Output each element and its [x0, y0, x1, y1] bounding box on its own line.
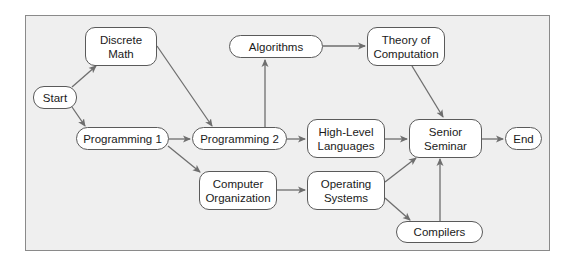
edge-start-discrete [72, 66, 96, 87]
node-senior-seminar: Senior Seminar [409, 119, 482, 158]
node-theory-of-computation: Theory of Computation [367, 27, 445, 66]
node-end: End [505, 127, 542, 150]
edge-discrete-prog2 [157, 46, 212, 126]
edge-theory-senior [412, 66, 443, 117]
edge-opsys-senior [385, 158, 416, 182]
node-high-level-languages: High-Level Languages [307, 119, 385, 158]
node-discrete-math: Discrete Math [85, 27, 157, 66]
node-programming-1: Programming 1 [76, 127, 169, 150]
node-start: Start [33, 86, 77, 109]
edge-opsys-compilers [385, 198, 410, 220]
node-compilers: Compilers [396, 221, 483, 243]
node-computer-organization: Computer Organization [199, 171, 277, 210]
edge-prog1-comporg [168, 146, 200, 172]
edge-start-prog1 [72, 107, 85, 126]
node-operating-systems: Operating Systems [307, 171, 385, 210]
node-programming-2: Programming 2 [192, 127, 287, 150]
node-algorithms: Algorithms [229, 35, 323, 58]
